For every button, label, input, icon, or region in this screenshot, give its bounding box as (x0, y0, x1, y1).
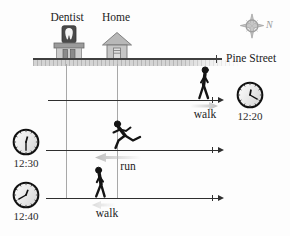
timeline-arrowhead-icon (218, 147, 224, 153)
home-label: Home (89, 11, 143, 24)
walking-person-west-icon (91, 166, 111, 198)
timeline-line (46, 198, 218, 199)
timeline-tick (212, 195, 213, 201)
dentist-office-building-icon (53, 25, 85, 62)
compass-rose-icon (238, 13, 266, 41)
street-line (33, 58, 222, 60)
timeline-arrowhead-icon (218, 195, 224, 201)
clock-1220-icon (236, 81, 264, 109)
running-person-west-icon (109, 119, 143, 151)
clock-1240-icon (12, 181, 40, 209)
timeline-arrowhead-icon (218, 97, 224, 103)
motion-diagram-figure: Dentist Home N Pine Street (0, 0, 290, 236)
street-end-tick (216, 55, 217, 63)
time-label: 12:30 (6, 157, 46, 169)
street-name-label: Pine Street (226, 52, 290, 65)
time-label: 12:20 (230, 110, 270, 122)
action-label: walk (87, 207, 127, 220)
reference-line-dentist (66, 64, 67, 199)
walking-person-east-icon (193, 66, 215, 100)
compass-north-label: N (266, 19, 273, 30)
action-label: run (108, 160, 148, 173)
time-label: 12:40 (6, 210, 46, 222)
timeline-tick (212, 147, 213, 153)
clock-1230-icon (12, 128, 40, 156)
dentist-label: Dentist (40, 11, 94, 24)
action-label: walk (185, 108, 225, 121)
